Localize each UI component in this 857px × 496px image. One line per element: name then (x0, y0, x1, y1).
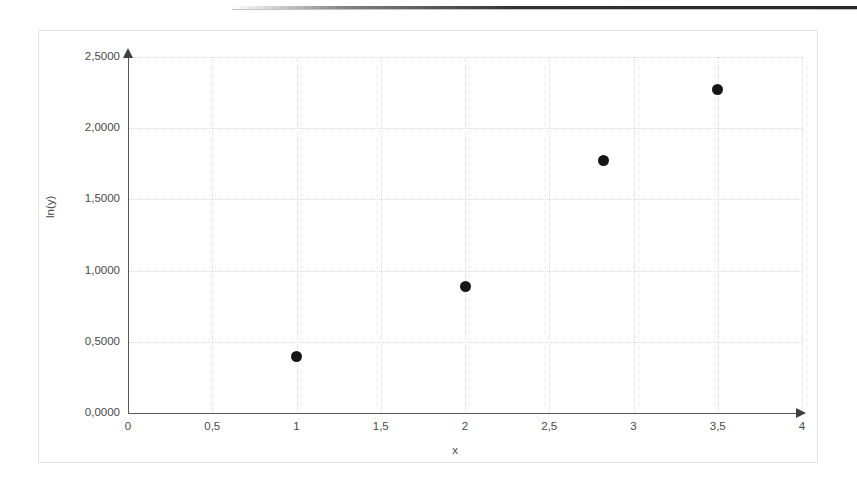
y-axis-tick-label-text: 0,0000 (58, 406, 120, 418)
x-axis-tick-label-text: 1 (272, 420, 322, 432)
data-point (291, 351, 302, 362)
x-axis-tick-label: 1,5 (356, 420, 406, 436)
x-axis-tick-label: 0 (103, 420, 153, 436)
x-axis-tick-label-text: 1,5 (356, 420, 406, 432)
gridline-vertical (718, 57, 720, 413)
data-point (712, 84, 723, 95)
y-axis-title: ln(y) (44, 196, 56, 218)
y-axis-tick-label: 1,0000 (56, 264, 120, 278)
data-point (598, 155, 609, 166)
y-axis-tick-label: 0,5000 (56, 335, 120, 349)
x-axis-tick-label-text: 2 (440, 420, 490, 432)
x-axis-tick-label: 0,5 (187, 420, 237, 436)
x-axis-tick-label-text: 4 (777, 420, 827, 432)
y-axis-tick-label-text: 2,0000 (58, 121, 120, 133)
x-axis-tick-label: 1 (272, 420, 322, 436)
x-axis-arrow-icon (796, 408, 806, 418)
x-axis-tick-label: 2 (440, 420, 490, 436)
y-axis-tick-label-text: 0,5000 (58, 335, 120, 347)
x-axis-tick-label-text: 3,5 (693, 420, 743, 432)
x-axis-tick-label: 3 (609, 420, 659, 436)
gridline-vertical (381, 57, 383, 413)
y-axis-tick-label: 2,0000 (56, 121, 120, 135)
x-axis-tick-label-text: 3 (609, 420, 659, 432)
y-axis-tick-label: 0,0000 (56, 406, 120, 420)
x-axis-tick-label-text: 2,5 (524, 420, 574, 432)
gridline-vertical (802, 57, 804, 413)
y-axis-tick-label: 1,5000 (56, 192, 120, 206)
y-axis-tick-label-text: 1,5000 (58, 192, 120, 204)
y-axis-tick-label-text: 2,5000 (58, 50, 120, 62)
y-axis-arrow-icon (123, 48, 133, 58)
gridline-vertical (634, 57, 636, 413)
x-axis-tick-label-text: 0,5 (187, 420, 237, 432)
scatter-plot: 0,00000,50001,00001,50002,00002,5000 00,… (0, 0, 857, 496)
gridline-vertical (212, 57, 214, 413)
y-axis-tick-label: 2,5000 (56, 50, 120, 64)
gridline-vertical (465, 57, 467, 413)
x-axis-line (128, 413, 802, 414)
y-axis-line (128, 57, 129, 414)
x-axis-tick-label: 4 (777, 420, 827, 436)
x-axis-tick-label: 2,5 (524, 420, 574, 436)
x-axis-tick-label-text: 0 (103, 420, 153, 432)
y-axis-tick-label-text: 1,0000 (58, 264, 120, 276)
x-axis-title: x (405, 444, 505, 456)
data-point (460, 281, 471, 292)
x-axis-tick-label: 3,5 (693, 420, 743, 436)
gridline-vertical (549, 57, 551, 413)
